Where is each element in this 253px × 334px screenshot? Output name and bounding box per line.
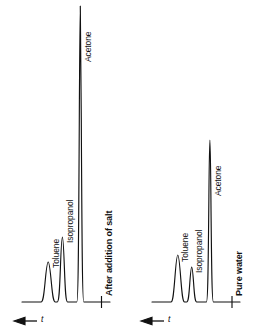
- condition-label-after-addition-of-salt: After addition of salt: [105, 211, 114, 296]
- peak-label-acetone-left: Acetone: [84, 32, 93, 63]
- peak-label-toluene-left: Toluene: [52, 239, 61, 268]
- peak-label-isopropanol-right: Isopropanol: [195, 230, 204, 273]
- time-axis-arrowhead-left: [14, 317, 25, 325]
- time-axis-label-right: t: [168, 315, 170, 324]
- peak-label-acetone-right: Acetone: [214, 166, 223, 197]
- chromatogram-left-trace: [22, 6, 110, 302]
- time-axis-arrowhead-right: [141, 317, 152, 325]
- chromatogram-figure: Toluene Isopropanol Acetone After additi…: [0, 0, 253, 334]
- condition-label-pure-water: Pure water: [235, 251, 244, 296]
- peak-label-toluene-right: Toluene: [181, 233, 190, 262]
- chromatogram-panel-after-addition-of-salt: Toluene Isopropanol Acetone After additi…: [0, 0, 126, 334]
- peak-label-isopropanol-left: Isopropanol: [66, 200, 75, 243]
- chromatogram-right-trace: [152, 140, 240, 302]
- chromatogram-panel-pure-water: Toluene Isopropanol Acetone Pure water t: [127, 0, 253, 334]
- time-axis-label-left: t: [41, 315, 43, 324]
